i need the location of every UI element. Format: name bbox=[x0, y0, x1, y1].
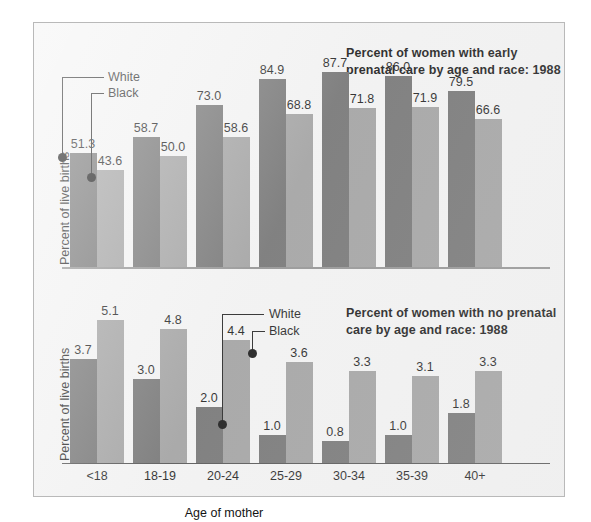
bar-black: 3.3 bbox=[349, 371, 376, 463]
legend-leader-black-top-v bbox=[91, 93, 92, 175]
bar-value-label: 79.5 bbox=[441, 75, 481, 89]
x-tick-label: 25-29 bbox=[259, 469, 313, 483]
figure: Percent of women with early prenatal car… bbox=[0, 0, 591, 522]
x-tick-label: 18-19 bbox=[133, 469, 187, 483]
x-tick-label: 30-34 bbox=[322, 469, 376, 483]
legend-leader-black-bottom-v bbox=[252, 331, 253, 351]
bar-value-label: 58.6 bbox=[216, 121, 256, 135]
bar-black: 66.6 bbox=[475, 119, 502, 267]
bar-white: 51.3 bbox=[70, 153, 97, 267]
bar-white: 3.0 bbox=[133, 379, 160, 463]
bar-white: 1.0 bbox=[385, 435, 412, 463]
bar-white: 2.0 bbox=[196, 407, 223, 463]
bar-white: 1.8 bbox=[448, 413, 475, 463]
x-tick-label: 20-24 bbox=[196, 469, 250, 483]
bar-black: 3.6 bbox=[286, 362, 313, 463]
bar-black: 3.1 bbox=[412, 376, 439, 463]
bar-value-label: 66.6 bbox=[468, 103, 508, 117]
legend-dot-white-bottom bbox=[218, 420, 227, 429]
bar-group: 1.03.1 bbox=[385, 295, 439, 463]
bar-value-label: 71.8 bbox=[342, 92, 382, 106]
bar-value-label: 87.7 bbox=[315, 56, 355, 70]
bar-value-label: 43.6 bbox=[90, 154, 130, 168]
plot-area-bottom: 3.75.13.04.82.04.41.03.60.83.31.03.11.83… bbox=[62, 295, 550, 463]
bar-value-label: 3.3 bbox=[468, 355, 508, 369]
bar-black: 68.8 bbox=[286, 114, 313, 267]
legend-label-white-top: White bbox=[108, 70, 140, 84]
legend-dot-white-top bbox=[58, 153, 67, 162]
bar-group: 58.750.0 bbox=[133, 45, 187, 267]
bar-value-label: 3.3 bbox=[342, 355, 382, 369]
bar-white: 0.8 bbox=[322, 441, 349, 463]
bar-group: 1.83.3 bbox=[448, 295, 502, 463]
bar-value-label: 3.6 bbox=[279, 346, 319, 360]
legend-label-black-bottom: Black bbox=[269, 324, 300, 338]
bar-group: 79.566.6 bbox=[448, 45, 502, 267]
bar-value-label: 86.0 bbox=[378, 60, 418, 74]
bar-value-label: 58.7 bbox=[126, 121, 166, 135]
bar-group: 3.75.1 bbox=[70, 295, 124, 463]
legend-label-black-top: Black bbox=[108, 86, 139, 100]
bar-black: 4.8 bbox=[160, 329, 187, 463]
legend-label-white-bottom: White bbox=[269, 307, 301, 321]
bar-value-label: 71.9 bbox=[405, 91, 445, 105]
bar-group: 3.04.8 bbox=[133, 295, 187, 463]
bar-value-label: 73.0 bbox=[189, 89, 229, 103]
bar-value-label: 5.1 bbox=[90, 304, 130, 318]
bar-value-label: 68.8 bbox=[279, 98, 319, 112]
bar-white: 79.5 bbox=[448, 91, 475, 267]
legend-leader-white-top-v bbox=[62, 77, 63, 155]
legend-leader-black-bottom-h bbox=[252, 331, 265, 332]
legend-leader-white-bottom-h bbox=[222, 314, 264, 315]
x-tick-label: <18 bbox=[70, 469, 124, 483]
bar-white: 58.7 bbox=[133, 137, 160, 267]
bar-white: 1.0 bbox=[259, 435, 286, 463]
x-tick-label: 35-39 bbox=[385, 469, 439, 483]
bar-group: 86.071.9 bbox=[385, 45, 439, 267]
bar-black: 50.0 bbox=[160, 156, 187, 267]
bar-group: 0.83.3 bbox=[322, 295, 376, 463]
legend-dot-black-bottom bbox=[248, 349, 257, 358]
bar-value-label: 4.8 bbox=[153, 313, 193, 327]
bar-value-label: 3.1 bbox=[405, 360, 445, 374]
bar-value-label: 84.9 bbox=[252, 63, 292, 77]
chart-panel: Percent of women with early prenatal car… bbox=[33, 22, 565, 497]
bar-group: 73.058.6 bbox=[196, 45, 250, 267]
bar-black: 4.4 bbox=[223, 340, 250, 463]
bar-value-label: 51.3 bbox=[63, 137, 103, 151]
bar-group: 2.04.4 bbox=[196, 295, 250, 463]
legend-leader-black-top-h bbox=[91, 93, 104, 94]
x-axis-line-bottom bbox=[62, 463, 550, 464]
legend-dot-black-top bbox=[87, 173, 96, 182]
bar-black: 43.6 bbox=[97, 170, 124, 267]
bar-black: 58.6 bbox=[223, 137, 250, 267]
legend-leader-white-bottom-v bbox=[222, 314, 223, 422]
x-tick-label: 40+ bbox=[448, 469, 502, 483]
bar-black: 3.3 bbox=[475, 371, 502, 463]
bar-white: 3.7 bbox=[70, 359, 97, 463]
bar-value-label: 50.0 bbox=[153, 140, 193, 154]
bar-black: 71.9 bbox=[412, 107, 439, 267]
bar-black: 5.1 bbox=[97, 320, 124, 463]
legend-leader-white-top-h bbox=[62, 77, 104, 78]
x-axis-title: Age of mother bbox=[34, 506, 414, 520]
bar-black: 71.8 bbox=[349, 108, 376, 267]
bar-group: 84.968.8 bbox=[259, 45, 313, 267]
bar-group: 87.771.8 bbox=[322, 45, 376, 267]
